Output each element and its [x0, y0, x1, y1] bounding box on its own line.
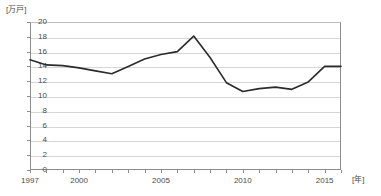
line-chart-figure: [万戸] [年] 02468101214161820 1997200020052… [0, 0, 381, 196]
series-layer [0, 0, 381, 196]
series-line-housing-starts [30, 36, 341, 91]
